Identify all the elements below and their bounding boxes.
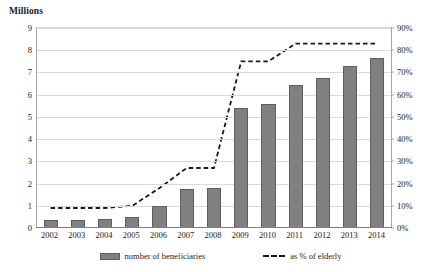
bar-2007 xyxy=(180,189,194,228)
gridline xyxy=(37,95,391,96)
secondary-y-axis-tickmark xyxy=(391,183,394,184)
chart-legend: number of beneficiaries as % of elderly xyxy=(0,247,441,265)
bar-swatch-icon xyxy=(100,253,120,260)
y-axis-tick-label: 5 xyxy=(28,113,32,122)
y-axis-tick-label: 9 xyxy=(28,24,32,33)
bar-2010 xyxy=(261,104,275,228)
bar-2012 xyxy=(316,78,330,228)
plot-area: 01234567890%10%20%30%40%50%60%70%80%90% xyxy=(36,27,392,228)
x-axis-tick-label-2007: 2007 xyxy=(172,231,199,240)
y-axis-tick-label: 3 xyxy=(28,157,32,166)
secondary-y-axis-tick-label: 70% xyxy=(397,68,413,77)
y-axis-title: Millions xyxy=(9,6,43,16)
bar-2006 xyxy=(152,206,166,228)
secondary-y-axis-tick-label: 90% xyxy=(397,24,413,33)
x-axis-tick-label-2002: 2002 xyxy=(36,231,63,240)
bar-2011 xyxy=(289,85,303,228)
legend-label-percent-elderly: as % of elderly xyxy=(290,251,341,261)
secondary-y-axis-tick-label: 10% xyxy=(397,202,413,211)
secondary-y-axis-tick-label: 20% xyxy=(397,179,413,188)
gridline xyxy=(37,184,391,185)
secondary-y-axis-tickmark xyxy=(391,161,394,162)
chart-container: Millions 01234567890%10%20%30%40%50%60%7… xyxy=(0,0,441,272)
secondary-y-axis-tick-label: 80% xyxy=(397,46,413,55)
secondary-y-axis-tick-label: 60% xyxy=(397,90,413,99)
x-axis-tick-label-2004: 2004 xyxy=(90,231,117,240)
secondary-y-axis-tickmark xyxy=(391,116,394,117)
secondary-y-axis-tickmark xyxy=(391,28,394,29)
dashed-line-swatch-icon xyxy=(263,255,285,257)
x-axis-tick-label-2009: 2009 xyxy=(227,231,254,240)
secondary-y-axis-tick-label: 0% xyxy=(397,224,408,233)
secondary-y-axis-tickmark xyxy=(391,50,394,51)
y-axis-tick-label: 1 xyxy=(28,202,32,211)
x-axis-tick-label-2011: 2011 xyxy=(281,231,308,240)
secondary-y-axis-tickmark xyxy=(391,72,394,73)
x-axis-tick-label-2010: 2010 xyxy=(254,231,281,240)
x-axis-tick-label-2014: 2014 xyxy=(363,231,390,240)
gridline xyxy=(37,28,391,29)
gridline xyxy=(37,72,391,73)
secondary-y-axis-tick-label: 30% xyxy=(397,157,413,166)
gridline xyxy=(37,161,391,162)
x-axis-tick-label-2008: 2008 xyxy=(199,231,226,240)
secondary-y-axis-tickmark xyxy=(391,94,394,95)
y-axis-tick-label: 7 xyxy=(28,68,32,77)
x-axis-tick-label-2013: 2013 xyxy=(336,231,363,240)
x-axis-line xyxy=(36,227,392,228)
y-axis-tick-label: 4 xyxy=(28,135,32,144)
x-axis-tick-label-2012: 2012 xyxy=(308,231,335,240)
x-axis-tick-label-2005: 2005 xyxy=(118,231,145,240)
secondary-y-axis-tick-label: 40% xyxy=(397,135,413,144)
y-axis-tick-label: 2 xyxy=(28,179,32,188)
bar-2008 xyxy=(207,188,221,228)
secondary-y-axis-tickmark xyxy=(391,139,394,140)
secondary-y-axis-tickmark xyxy=(391,205,394,206)
bar-2013 xyxy=(343,66,357,228)
legend-item-percent-elderly: as % of elderly xyxy=(263,251,341,261)
gridline xyxy=(37,117,391,118)
secondary-y-axis-tick-label: 50% xyxy=(397,113,413,122)
x-axis-tick-label-2006: 2006 xyxy=(145,231,172,240)
bar-2014 xyxy=(370,58,384,228)
legend-item-beneficiaries: number of beneficiaries xyxy=(100,251,206,261)
y-axis-tick-label: 6 xyxy=(28,90,32,99)
x-axis-tick-label-2003: 2003 xyxy=(63,231,90,240)
y-axis-tick-label: 0 xyxy=(28,224,32,233)
gridline xyxy=(37,139,391,140)
gridline xyxy=(37,50,391,51)
legend-label-beneficiaries: number of beneficiaries xyxy=(125,251,206,261)
y-axis-tick-label: 8 xyxy=(28,46,32,55)
bar-2009 xyxy=(234,108,248,228)
